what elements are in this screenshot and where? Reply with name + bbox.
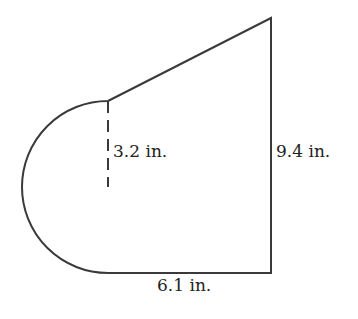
composite-figure: 3.2 in. 9.4 in. 6.1 in. <box>0 0 358 319</box>
base-label: 6.1 in. <box>157 275 211 295</box>
radius-label: 3.2 in. <box>113 141 167 161</box>
height-label: 9.4 in. <box>276 141 330 161</box>
diagram-canvas: 3.2 in. 9.4 in. 6.1 in. <box>0 0 358 319</box>
